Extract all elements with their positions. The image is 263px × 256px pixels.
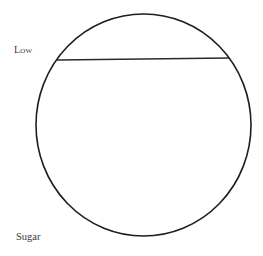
label-sugar: Sugar xyxy=(16,232,41,243)
circle-diagram xyxy=(0,0,263,256)
diagram-canvas: Low Sugar xyxy=(0,0,263,256)
label-low: Low xyxy=(14,45,32,55)
outer-circle xyxy=(36,14,251,236)
horizontal-chord-line xyxy=(57,58,229,60)
